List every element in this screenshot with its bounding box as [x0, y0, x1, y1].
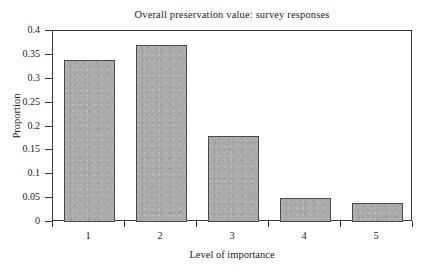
y-tick-mark: [45, 149, 52, 150]
x-tick-label-1: 1: [52, 229, 124, 242]
y-tick-label: 0: [0, 215, 40, 226]
x-tick-mark: [196, 221, 197, 227]
x-tick-mark: [340, 221, 341, 227]
chart-figure: Overall preservation value: survey respo…: [0, 0, 423, 273]
chart-title: Overall preservation value: survey respo…: [52, 8, 412, 21]
y-tick-label: 0.4: [0, 24, 40, 35]
bar-1: [64, 60, 115, 222]
x-tick-label-2: 2: [124, 229, 196, 242]
y-tick-label: 0.15: [0, 143, 40, 154]
y-tick-mark: [45, 54, 52, 55]
bar-4: [280, 198, 331, 222]
plot-area: [52, 30, 412, 221]
x-tick-mark: [124, 221, 125, 227]
y-tick-mark: [45, 78, 52, 79]
y-tick-label: 0.2: [0, 120, 40, 131]
y-tick-label: 0.05: [0, 191, 40, 202]
y-tick-mark: [45, 30, 52, 31]
y-tick-mark: [45, 102, 52, 103]
y-tick-mark: [45, 173, 52, 174]
x-tick-label-5: 5: [340, 229, 412, 242]
bar-2: [136, 45, 187, 222]
y-tick-label: 0.3: [0, 72, 40, 83]
x-tick-mark: [412, 221, 413, 227]
x-tick-mark: [52, 221, 53, 227]
x-tick-mark: [268, 221, 269, 227]
y-tick-mark: [45, 126, 52, 127]
bar-3: [208, 136, 259, 222]
y-tick-mark: [45, 221, 52, 222]
y-tick-label: 0.35: [0, 48, 40, 59]
x-tick-label-3: 3: [196, 229, 268, 242]
bar-5: [352, 203, 403, 222]
y-tick-label: 0.1: [0, 167, 40, 178]
y-tick-mark: [45, 197, 52, 198]
y-tick-label: 0.25: [0, 96, 40, 107]
x-axis-title: Level of importance: [52, 248, 412, 261]
x-tick-label-4: 4: [268, 229, 340, 242]
